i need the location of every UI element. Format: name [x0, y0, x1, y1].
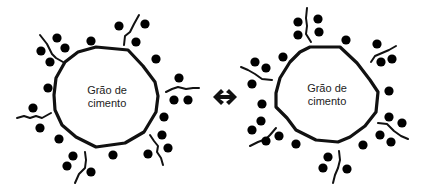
- cross-ion-icon: [291, 139, 300, 148]
- cross-ion-icon: [313, 14, 322, 23]
- plus-ion-icon: [86, 36, 95, 45]
- plus-ion-icon: [397, 118, 406, 127]
- cross-ion-icon: [28, 103, 37, 112]
- cross-ion-icon: [387, 54, 396, 63]
- cross-ion-icon: [52, 33, 61, 42]
- cross-ion-icon: [183, 95, 192, 104]
- plus-ion-icon: [375, 130, 384, 139]
- cross-ion-icon: [36, 46, 45, 55]
- plus-ion-icon: [159, 112, 168, 121]
- plus-ion-icon: [86, 167, 95, 176]
- cross-ion-icon: [60, 43, 69, 52]
- right-grain-label-line1: Grão de: [307, 82, 347, 94]
- plus-ion-icon: [151, 54, 160, 63]
- plus-ion-icon: [323, 152, 332, 161]
- cross-ion-icon: [293, 17, 302, 26]
- plus-ion-icon: [250, 57, 259, 66]
- cross-ion-icon: [143, 149, 152, 158]
- plus-ion-icon: [43, 83, 52, 92]
- plus-ion-icon: [62, 161, 71, 170]
- plus-ion-icon: [247, 79, 256, 88]
- polymer-chain: [17, 113, 51, 118]
- left-cement-grain: Grão de cimento: [17, 15, 199, 183]
- cross-ion-icon: [169, 95, 178, 104]
- cross-ion-icon: [274, 131, 283, 140]
- cross-ion-icon: [247, 125, 256, 134]
- cross-ion-icon: [45, 57, 54, 66]
- cross-ion-icon: [35, 123, 44, 132]
- cross-ion-icon: [261, 136, 270, 145]
- plus-ion-icon: [114, 21, 123, 30]
- cross-ion-icon: [341, 35, 350, 44]
- cross-ion-icon: [384, 86, 393, 95]
- cross-ion-icon: [314, 27, 323, 36]
- polymer-chain: [306, 8, 311, 42]
- cross-ion-icon: [157, 130, 166, 139]
- plus-ion-icon: [131, 37, 140, 46]
- cross-ion-icon: [256, 116, 265, 125]
- cross-ion-icon: [257, 99, 266, 108]
- cross-ion-icon: [376, 57, 385, 66]
- cross-ion-icon: [372, 39, 381, 48]
- right-cement-grain: Grão de cimento: [241, 8, 408, 183]
- double-arrow-icon: [213, 89, 237, 105]
- left-grain-label-line2: cimento: [88, 97, 127, 109]
- plus-ion-icon: [54, 134, 63, 143]
- left-grain-label-line1: Grão de: [87, 84, 127, 96]
- plus-ion-icon: [384, 112, 393, 121]
- polymer-chain: [333, 151, 340, 183]
- cross-ion-icon: [358, 140, 367, 149]
- plus-ion-icon: [140, 19, 149, 28]
- cross-ion-icon: [293, 30, 302, 39]
- cross-ion-icon: [278, 52, 287, 61]
- polymer-chain: [166, 87, 199, 92]
- plus-ion-icon: [68, 151, 77, 160]
- plus-ion-icon: [342, 164, 351, 173]
- right-grain-label-line2: cimento: [308, 95, 347, 107]
- cross-ion-icon: [174, 73, 183, 82]
- plus-ion-icon: [318, 163, 327, 172]
- plus-ion-icon: [261, 63, 270, 72]
- plus-ion-icon: [386, 137, 395, 146]
- cross-ion-icon: [163, 143, 172, 152]
- plus-ion-icon: [108, 150, 117, 159]
- cement-grain-diagram: Grão de cimento: [0, 0, 426, 191]
